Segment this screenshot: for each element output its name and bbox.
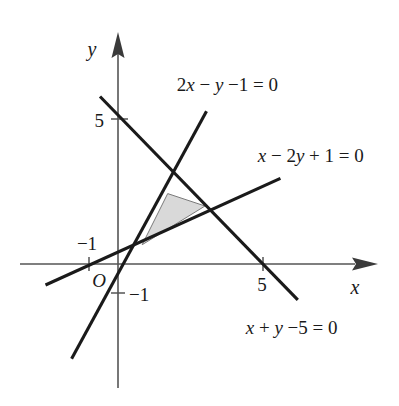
coordinate-graph-figure: y x O −1 5 5 −1 2x − y −1 = 0 x − 2y + 1… <box>0 0 399 406</box>
eq1-tail: −1 = 0 <box>223 74 278 95</box>
y-tick-label-5: 5 <box>95 110 105 131</box>
x-tick-label-5: 5 <box>257 274 267 295</box>
y-tick-label-minus-1: −1 <box>129 284 149 305</box>
equation-label-x-plus-y-minus-5: x + y −5 = 0 <box>222 317 352 338</box>
x-tick-label-minus-1: −1 <box>77 233 97 254</box>
eq2-coef: 2 <box>286 145 296 166</box>
origin-label: O <box>92 270 106 291</box>
eq1-coef: 2 <box>177 74 187 95</box>
eq2-var-y: y <box>294 145 305 166</box>
eq3-op: + <box>254 317 274 338</box>
y-axis-label: y <box>86 38 97 61</box>
eq1-op: − <box>195 74 215 95</box>
equation-label-x-minus-2y-plus-1: x − 2y + 1 = 0 <box>234 145 378 166</box>
figure-background <box>0 0 399 406</box>
x-axis-label: x <box>350 276 360 298</box>
equation-label-2x-minus-y-minus-1: 2x − y −1 = 0 <box>153 74 292 95</box>
eq3-tail: −5 = 0 <box>283 317 338 338</box>
eq3-var-y: y <box>272 317 283 338</box>
eq2-tail: + 1 = 0 <box>304 145 363 166</box>
eq1-var-y: y <box>213 74 224 95</box>
eq2-op: − <box>266 145 286 166</box>
